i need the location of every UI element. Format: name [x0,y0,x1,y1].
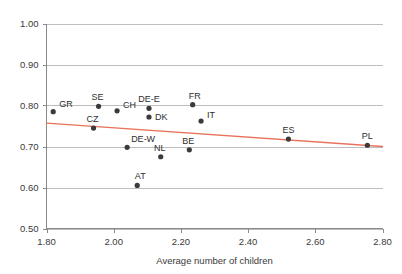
data-point-dk [146,114,151,119]
data-point-se [96,104,101,109]
point-label-at: AT [135,171,146,181]
scatter-chart: 1.802.002.202.402.602.80 0.500.600.700.8… [0,0,402,274]
x-tick-labels: 1.802.002.202.402.602.80 [37,236,392,247]
data-point-nl [158,154,163,159]
point-label-it: IT [207,110,216,120]
data-point-de-e [146,106,151,111]
chart-canvas: 1.802.002.202.402.602.80 0.500.600.700.8… [0,0,402,274]
data-point-ch [114,108,119,113]
y-tick-label: 0.90 [20,59,39,70]
y-tick-label: 0.60 [20,182,39,193]
point-label-cz: CZ [87,114,99,124]
data-point-at [135,183,140,188]
trend-line [47,123,383,146]
point-label-dk: DK [155,112,168,122]
y-tick-label: 0.80 [20,100,39,111]
y-tick-labels: 0.500.600.700.800.901.00 [20,18,39,234]
data-point-cz [91,125,96,130]
point-label-se: SE [92,92,104,102]
point-label-gr: GR [59,99,73,109]
point-label-de-w: DE-W [131,134,155,144]
data-point-be [187,147,192,152]
data-point-de-w [125,145,130,150]
data-point-fr [190,102,195,107]
point-label-pl: PL [362,131,373,141]
data-point-gr [51,109,56,114]
trend-line-group [47,123,383,146]
x-tick-label: 2.60 [306,236,325,247]
x-axis-title: Average number of children [156,255,273,266]
point-label-ch: CH [123,100,136,110]
point-label-de-e: DE-E [138,94,160,104]
x-tick-label: 2.20 [172,236,191,247]
data-point-it [198,118,203,123]
y-tick-label: 1.00 [20,18,39,29]
point-label-nl: NL [154,143,166,153]
x-tick-label: 2.00 [104,236,123,247]
x-tick-label: 2.80 [373,236,392,247]
x-tick-label: 2.40 [239,236,258,247]
y-tick-label: 0.50 [20,223,39,234]
x-tick-label: 1.80 [37,236,56,247]
point-label-fr: FR [189,91,201,101]
data-point-es [286,137,291,142]
point-label-es: ES [282,125,294,135]
x-axis-title-group: Average number of children [156,255,273,266]
data-point-pl [365,143,370,148]
point-label-be: BE [182,136,194,146]
y-tick-label: 0.70 [20,141,39,152]
